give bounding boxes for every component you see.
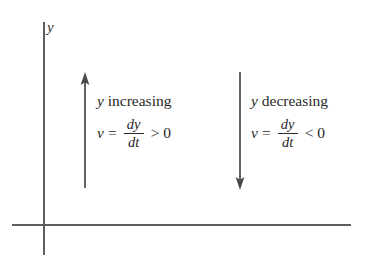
annotation-y-decreasing: y decreasing v = dy dt < 0 bbox=[251, 92, 328, 150]
x-axis-line bbox=[12, 224, 351, 226]
equation-v-positive: v = dy dt > 0 bbox=[97, 117, 171, 150]
caption-text-left: increasing bbox=[108, 92, 172, 109]
fraction-numerator-right: dy bbox=[280, 117, 296, 132]
equation-equals-left: = bbox=[108, 124, 117, 142]
caption-y-decreasing: y decreasing bbox=[251, 92, 328, 110]
equation-relation-right: < 0 bbox=[305, 124, 325, 142]
caption-y-increasing: y increasing bbox=[97, 92, 171, 110]
fraction-dy-dt-left: dy dt bbox=[124, 117, 144, 150]
equation-lhs-left: v bbox=[97, 124, 104, 142]
velocity-sign-diagram: y y increasing v = dy dt > 0 y decrea bbox=[0, 0, 375, 260]
equation-v-negative: v = dy dt < 0 bbox=[251, 117, 328, 150]
fraction-dy-dt-right: dy dt bbox=[278, 117, 298, 150]
annotation-y-increasing: y increasing v = dy dt > 0 bbox=[97, 92, 171, 150]
y-axis-label: y bbox=[47, 20, 54, 35]
y-axis-line bbox=[43, 22, 45, 255]
caption-text-right: decreasing bbox=[262, 92, 328, 109]
upward-velocity-arrow bbox=[78, 72, 92, 190]
caption-variable-left: y bbox=[97, 92, 104, 109]
equation-relation-left: > 0 bbox=[151, 124, 171, 142]
equation-equals-right: = bbox=[262, 124, 271, 142]
fraction-numerator-left: dy bbox=[126, 117, 142, 132]
fraction-denominator-left: dt bbox=[127, 135, 140, 150]
equation-lhs-right: v bbox=[251, 124, 258, 142]
downward-velocity-arrow bbox=[233, 72, 247, 190]
caption-variable-right: y bbox=[251, 92, 258, 109]
fraction-denominator-right: dt bbox=[281, 135, 294, 150]
